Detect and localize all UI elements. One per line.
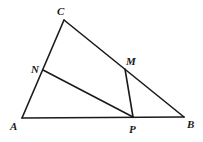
label-point-m: M — [125, 55, 137, 67]
label-point-p: P — [129, 123, 136, 135]
segment-NP — [43, 70, 133, 117]
segment-AB — [22, 117, 184, 118]
label-point-b: B — [186, 118, 194, 130]
segment-MP — [125, 69, 133, 117]
segment-AC — [22, 20, 64, 118]
triangle-diagram: A B C N M P — [0, 0, 203, 142]
label-point-a: A — [9, 120, 17, 132]
label-point-n: N — [30, 63, 40, 75]
label-point-c: C — [57, 5, 65, 17]
segment-CB — [64, 20, 184, 117]
